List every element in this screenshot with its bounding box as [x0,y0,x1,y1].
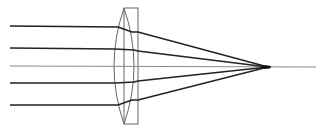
ray-5 [10,67,268,105]
ray-1 [10,26,268,67]
lens-diagram [0,0,329,134]
ray-2 [10,48,268,67]
focal-point [261,65,271,69]
ray-4 [10,67,268,83]
